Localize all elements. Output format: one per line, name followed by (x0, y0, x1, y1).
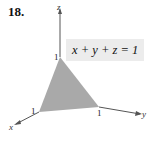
y-intercept-label: 1 (97, 108, 102, 118)
x-intercept-label: 1 (31, 106, 36, 116)
x-arrow-icon (14, 120, 21, 125)
plane-triangle (39, 57, 99, 112)
z-axis-label: z (57, 2, 61, 12)
z-intercept-label: 1 (54, 52, 59, 62)
axes-diagram (0, 0, 150, 150)
y-axis (99, 107, 140, 114)
x-axis-label: x (9, 122, 13, 132)
equation-label: x + y + z = 1 (72, 43, 138, 58)
y-axis-label: y (142, 109, 146, 119)
y-arrow-icon (135, 111, 142, 116)
